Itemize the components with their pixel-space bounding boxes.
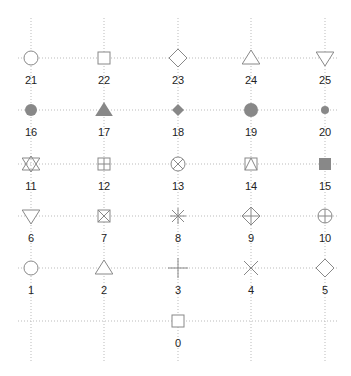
symbol-pch-9: 9 [242, 207, 260, 244]
symbol-label: 15 [319, 180, 331, 192]
triangle-down-open-icon [316, 52, 334, 66]
diamond-open-icon [169, 49, 187, 67]
symbol-pch-20: 20 [319, 106, 331, 138]
symbol-label: 5 [322, 284, 328, 296]
circle-filled-small-icon [321, 106, 329, 114]
symbol-pch-23: 23 [169, 49, 187, 86]
triangle-down-open-icon [22, 210, 40, 224]
triangle-up-open-icon [95, 260, 113, 274]
symbol-pch-5: 5 [316, 259, 334, 296]
symbol-label: 25 [319, 74, 331, 86]
symbol-label: 12 [98, 180, 110, 192]
symbol-label: 4 [248, 284, 254, 296]
square-open-icon [172, 315, 184, 327]
symbol-label: 6 [28, 232, 34, 244]
symbol-label: 21 [25, 74, 37, 86]
symbol-label: 1 [28, 284, 34, 296]
square-open-icon [98, 52, 110, 64]
symbol-label: 11 [25, 180, 36, 192]
symbol-label: 17 [98, 126, 110, 138]
symbol-label: 22 [98, 74, 110, 86]
symbol-pch-2: 2 [95, 260, 113, 296]
symbol-label: 23 [172, 74, 184, 86]
symbol-label: 14 [245, 180, 257, 192]
symbol-label: 18 [172, 126, 184, 138]
symbol-label: 13 [172, 180, 184, 192]
symbol-label: 16 [25, 126, 37, 138]
circle-open-icon [24, 51, 38, 65]
circle-filled-large-icon [244, 103, 258, 117]
diamond-open-icon [316, 259, 334, 277]
symbol-pch-10: 10 [318, 209, 332, 244]
symbol-label: 20 [319, 126, 331, 138]
symbol-pch-7: 7 [98, 210, 110, 244]
symbol-pch-24: 24 [242, 50, 260, 86]
square-cross-icon [98, 210, 110, 222]
symbol-label: 2 [101, 284, 107, 296]
symbol-pch-3: 3 [168, 258, 188, 296]
symbol-pch-4: 4 [244, 261, 258, 296]
symbol-label: 0 [175, 337, 181, 349]
symbol-pch-0: 0 [172, 315, 184, 349]
triangle-up-open-icon [242, 50, 260, 64]
symbol-label: 8 [175, 232, 181, 244]
circle-plus-icon [318, 209, 332, 223]
chart-canvas: 2122232425161718192011121314156789101234… [0, 0, 351, 376]
asterisk-icon [170, 208, 186, 224]
symbol-pch-21: 21 [24, 51, 38, 86]
symbol-pch-1: 1 [24, 261, 38, 296]
square-triangle-icon [245, 158, 257, 170]
symbol-label: 3 [175, 284, 181, 296]
triangle-up-filled-icon [95, 102, 113, 116]
circle-open-icon [24, 261, 38, 275]
pch-symbol-chart: 2122232425161718192011121314156789101234… [0, 0, 351, 376]
symbol-label: 9 [248, 232, 254, 244]
plus-icon [168, 258, 188, 278]
symbol-label: 24 [245, 74, 257, 86]
square-plus-icon [98, 158, 110, 170]
symbol-label: 10 [319, 232, 331, 244]
circle-filled-icon [25, 104, 37, 116]
circle-cross-icon [171, 157, 185, 171]
diamond-filled-small-icon [172, 104, 184, 116]
symbol-label: 7 [101, 232, 107, 244]
diamond-plus-icon [242, 207, 260, 225]
symbol-label: 19 [245, 126, 257, 138]
symbol-pch-6: 6 [22, 210, 40, 244]
square-filled-icon [319, 158, 331, 170]
